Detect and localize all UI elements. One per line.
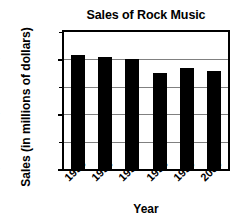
gridline-4000 — [64, 59, 228, 60]
y-tick-3000 — [59, 87, 64, 88]
bar-1998 — [153, 73, 167, 169]
y-axis-title: Sales (in millions of dollars) — [19, 12, 33, 202]
gridline-1000 — [64, 142, 228, 143]
bar-1995 — [71, 55, 85, 169]
bar-2000 — [207, 71, 221, 169]
bar-1997 — [125, 59, 139, 169]
y-tick-4000 — [58, 59, 64, 61]
bar-chart-figure: Sales of Rock Music Sales (in millions o… — [0, 0, 252, 222]
y-tick-0 — [58, 169, 64, 171]
gridline-3000 — [64, 87, 228, 88]
plot-frame — [62, 30, 230, 171]
chart-title: Sales of Rock Music — [62, 8, 230, 22]
bar-1999 — [180, 68, 194, 169]
bar-1996 — [98, 57, 112, 169]
plot-area — [64, 32, 228, 169]
gridline-2000 — [64, 114, 228, 115]
x-axis-title: Year — [62, 202, 230, 216]
y-tick-1000 — [59, 142, 64, 143]
y-tick-2000 — [58, 114, 64, 116]
y-tick-5000 — [59, 32, 64, 33]
